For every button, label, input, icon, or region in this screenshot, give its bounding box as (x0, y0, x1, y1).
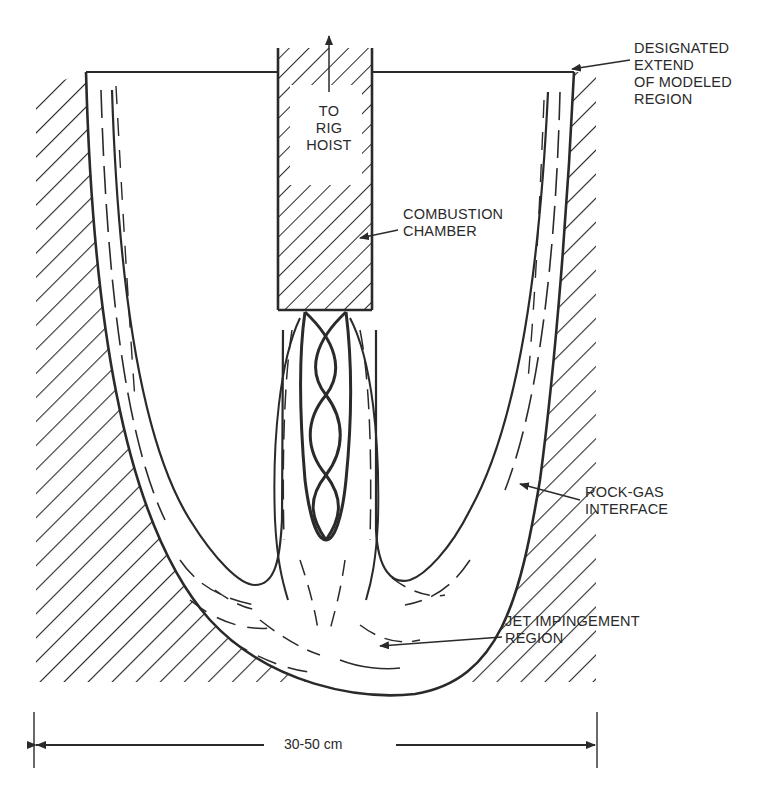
label-line: CHAMBER (403, 223, 503, 240)
label-line: ROCK-GAS (585, 484, 668, 501)
dimension-label: 30-50 cm (280, 736, 346, 752)
label-modeled-region: DESIGNATED EXTEND OF MODELED REGION (634, 40, 732, 108)
label-rock-gas-interface: ROCK-GAS INTERFACE (585, 484, 668, 518)
label-line: INTERFACE (585, 501, 668, 518)
label-line: DESIGNATED (634, 40, 732, 57)
label-jet-impingement: JET IMPINGEMENT REGION (505, 613, 640, 647)
label-line: COMBUSTION (403, 206, 503, 223)
combustion-chamber (278, 48, 372, 310)
label-line: JET IMPINGEMENT (505, 613, 640, 630)
label-line: OF MODELED (634, 74, 732, 91)
label-combustion-chamber: COMBUSTION CHAMBER (403, 206, 503, 240)
drilling-cavity-diagram (0, 0, 778, 798)
label-line: EXTEND (634, 57, 732, 74)
label-line: RIG (297, 120, 361, 137)
label-line: REGION (505, 630, 640, 647)
label-rig-hoist: TO RIG HOIST (297, 103, 361, 154)
label-line: HOIST (297, 137, 361, 154)
label-line: REGION (634, 91, 732, 108)
label-line: TO (297, 103, 361, 120)
